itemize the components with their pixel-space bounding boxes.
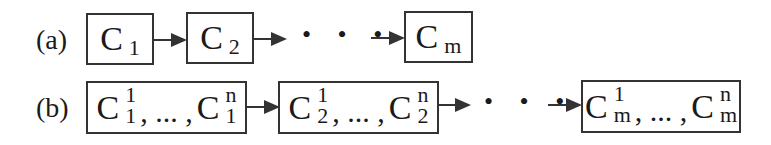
arrow-icon xyxy=(548,104,580,106)
node-subscript: 2 xyxy=(229,34,240,60)
row-b-label: (b) xyxy=(36,94,69,122)
arrow-icon xyxy=(247,106,278,108)
node-symbol: C xyxy=(100,20,123,58)
node-symbol: C xyxy=(389,89,412,127)
ellipsis-dots: • • • xyxy=(302,22,392,48)
node-subscript: 2 xyxy=(317,106,328,127)
node-c1-set: C11, ... ,Cn1 xyxy=(86,81,247,134)
node-symbol: C xyxy=(585,88,608,126)
node-cm: Cm xyxy=(404,11,473,63)
row-a-label: (a) xyxy=(36,26,67,54)
arrow-icon xyxy=(371,37,403,39)
node-subscript: m xyxy=(720,105,737,126)
separator: , ... , xyxy=(140,95,193,129)
separator: , ... , xyxy=(635,94,688,128)
node-subscript: 2 xyxy=(417,106,428,127)
node-c2-set: C12, ... ,Cn2 xyxy=(278,81,439,134)
node-c1: C1 xyxy=(86,13,154,65)
node-symbol: C xyxy=(97,89,120,127)
node-c2: C2 xyxy=(186,12,254,64)
node-symbol: C xyxy=(200,19,223,57)
node-symbol: C xyxy=(691,88,714,126)
separator: , ... , xyxy=(332,95,385,129)
node-subscript: m xyxy=(614,105,631,126)
node-symbol: C xyxy=(416,18,439,56)
node-subscript: 1 xyxy=(129,35,140,61)
node-subscript: 1 xyxy=(125,106,136,127)
node-symbol: C xyxy=(197,89,220,127)
node-subscript: m xyxy=(444,33,461,59)
ellipsis-dots: • • • xyxy=(484,89,574,115)
arrow-icon xyxy=(439,104,469,106)
node-cm-set: C1m, ... ,Cnm xyxy=(581,80,741,133)
node-symbol: C xyxy=(289,89,312,127)
arrow-icon xyxy=(154,39,185,41)
arrow-icon xyxy=(254,38,285,40)
node-subscript: 1 xyxy=(225,106,236,127)
